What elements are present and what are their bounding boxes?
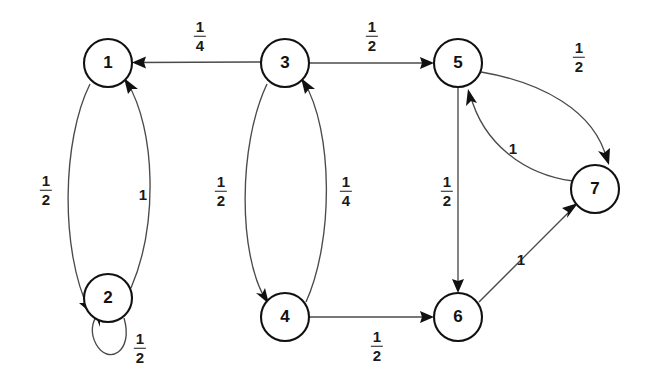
edge-weight-3-to-4: 12 (215, 174, 227, 209)
node-4-label: 4 (280, 307, 290, 326)
edge-2-to-1 (124, 78, 150, 288)
graph-canvas: 1 2 3 4 5 6 7 (0, 0, 652, 384)
fraction-numerator: 1 (340, 174, 352, 190)
fraction-denominator: 4 (340, 191, 352, 209)
edge-3-to-5 (309, 57, 434, 69)
node-7[interactable]: 7 (571, 165, 619, 213)
edge-weight-2-to-2: 12 (134, 331, 146, 366)
fraction-denominator: 2 (441, 191, 453, 209)
node-7-label: 7 (590, 179, 599, 198)
node-3[interactable]: 3 (261, 39, 309, 87)
fraction: 14 (340, 174, 352, 209)
node-1[interactable]: 1 (84, 39, 132, 87)
edge-weight-3-to-5: 12 (366, 19, 378, 54)
edge-weight-4-to-6: 12 (371, 329, 383, 364)
edge-weight-3-to-1: 14 (194, 19, 206, 54)
edge-5-to-6 (452, 87, 464, 293)
node-6-label: 6 (453, 307, 462, 326)
edge-weight-2-to-1: 1 (139, 187, 147, 202)
fraction: 12 (441, 174, 453, 209)
transition-diagram: 1 2 3 4 5 6 7 141212112121412121112 (0, 0, 652, 384)
edge-4-to-3 (301, 78, 326, 302)
fraction: 14 (194, 19, 206, 54)
fraction-denominator: 2 (573, 57, 585, 75)
fraction: 12 (134, 331, 146, 366)
fraction-numerator: 1 (441, 174, 453, 190)
edge-5-to-7 (481, 72, 610, 165)
node-6[interactable]: 6 (434, 293, 482, 341)
edge-weight-7-to-5: 1 (509, 141, 517, 156)
whole-number: 1 (139, 187, 147, 202)
fraction: 12 (215, 174, 227, 209)
fraction-numerator: 1 (573, 40, 585, 56)
fraction-denominator: 2 (371, 346, 383, 364)
fraction-numerator: 1 (134, 331, 146, 347)
edge-6-to-7 (479, 203, 578, 302)
fraction-numerator: 1 (40, 173, 52, 189)
edge-4-to-6 (309, 311, 434, 323)
fraction: 12 (366, 19, 378, 54)
fraction-numerator: 1 (371, 329, 383, 345)
edge-1-to-2 (68, 84, 92, 314)
edge-weight-1-to-2: 12 (40, 173, 52, 208)
edge-weight-5-to-7: 12 (573, 40, 585, 75)
node-3-label: 3 (280, 53, 289, 72)
fraction-numerator: 1 (215, 174, 227, 190)
edge-3-to-1 (132, 57, 261, 69)
fraction-numerator: 1 (194, 19, 206, 35)
node-2-label: 2 (103, 288, 112, 307)
fraction-denominator: 2 (134, 348, 146, 366)
edge-weight-6-to-7: 1 (517, 252, 525, 267)
whole-number: 1 (517, 252, 525, 267)
node-5[interactable]: 5 (434, 39, 482, 87)
edge-weight-5-to-6: 12 (441, 174, 453, 209)
fraction-denominator: 2 (40, 190, 52, 208)
edge-weight-4-to-3: 14 (340, 174, 352, 209)
node-1-label: 1 (103, 53, 112, 72)
fraction-denominator: 4 (194, 36, 206, 54)
fraction-numerator: 1 (366, 19, 378, 35)
fraction: 12 (371, 329, 383, 364)
node-4[interactable]: 4 (261, 293, 309, 341)
fraction-denominator: 2 (366, 36, 378, 54)
fraction: 12 (40, 173, 52, 208)
node-2[interactable]: 2 (84, 274, 132, 322)
edge-7-to-5 (466, 89, 573, 181)
whole-number: 1 (509, 141, 517, 156)
fraction-denominator: 2 (215, 191, 227, 209)
fraction: 12 (573, 40, 585, 75)
edge-3-to-4 (245, 84, 269, 304)
node-5-label: 5 (453, 53, 462, 72)
